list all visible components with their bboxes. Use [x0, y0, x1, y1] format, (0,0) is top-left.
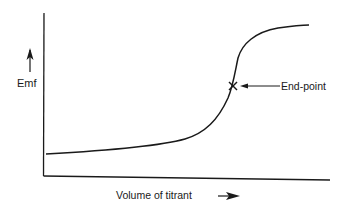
- x-axis-arrow-icon: [218, 192, 240, 200]
- titration-curve-diagram: Emf End-point Volume of titrant: [0, 0, 347, 210]
- x-axis: [44, 176, 331, 180]
- y-axis-arrow-icon: [27, 48, 34, 72]
- end-point-label: End-point: [281, 80, 326, 92]
- titration-curve: [46, 25, 309, 154]
- y-axis: [44, 13, 45, 176]
- x-axis-label: Volume of titrant: [116, 189, 192, 201]
- y-axis-label: Emf: [17, 77, 38, 89]
- end-point-arrow-icon: [240, 84, 280, 89]
